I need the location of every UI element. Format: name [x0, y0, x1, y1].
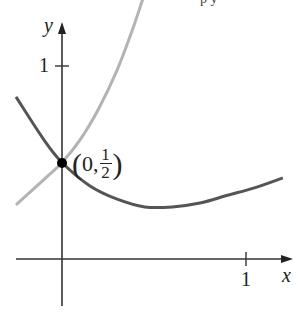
- curves-group: [16, 0, 283, 208]
- fraction-numerator: 1: [101, 146, 110, 163]
- x-axis-label: x: [282, 264, 291, 287]
- y-axis-arrow-icon: [58, 22, 66, 34]
- x-axis-arrow-icon: [281, 255, 293, 263]
- point-label-open-paren: (: [72, 149, 82, 179]
- y-axis-label: y: [44, 14, 53, 37]
- decreasing-curve: [16, 97, 283, 208]
- chart-plot-area: [0, 0, 303, 316]
- x-tick-label-1: 1: [241, 268, 251, 291]
- point-label: ( 0, 1 2 ): [72, 146, 123, 181]
- fraction-denominator: 2: [101, 164, 110, 181]
- point-label-fraction: 1 2: [100, 146, 112, 181]
- point-label-close-paren: ): [113, 149, 123, 179]
- point-label-x: 0,: [82, 151, 99, 177]
- point-marker: [57, 158, 67, 168]
- y-tick-label-1: 1: [39, 54, 49, 77]
